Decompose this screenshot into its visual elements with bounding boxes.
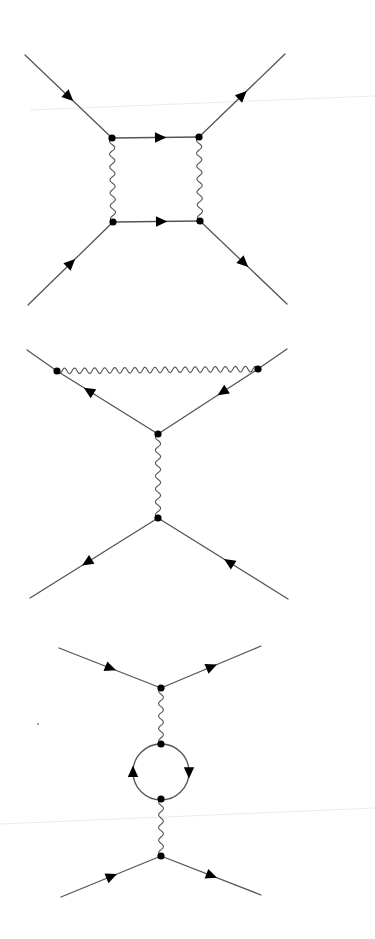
vertex-dot [254,365,261,372]
fermion-line-external-top-right [258,349,287,369]
vertex-dot [157,852,164,859]
fermion-line-internal-right [158,369,258,434]
scan-artifact-dot [37,723,39,725]
loop-arrow-icon [184,767,194,778]
fermion-line-internal-left [57,371,158,434]
vertex-dot [154,514,161,521]
scan-artifact-line [0,808,375,824]
vertex-dot [157,795,164,802]
photon-line-photon-lower [159,799,164,856]
arrow-icon [156,216,167,226]
fermion-line-external-bottom-left [30,518,158,598]
vertex-dot [53,367,60,374]
photon-line-photon-right [196,137,202,221]
vertex-dot [157,740,164,747]
arrow-icon [82,555,94,565]
arrow-icon [155,132,166,142]
vacuum-polarization-diagram [59,646,261,897]
vertex-correction-diagram [27,349,288,599]
photon-line-photon-center [155,434,160,518]
fermion-loop [133,744,189,800]
photon-line-photon-upper [159,688,164,744]
arrow-icon [224,559,236,569]
arrow-icon [84,388,96,398]
loop-arrow-icon [128,766,138,777]
arrow-icon [218,385,230,396]
photon-line-photon-left [109,138,115,222]
vertex-dot [108,134,115,141]
diagram-canvas [0,0,375,939]
scan-artifacts [0,96,375,824]
vertex-dot [196,217,203,224]
scan-artifact-line [30,96,375,110]
vertex-dot [195,133,202,140]
box-diagram [25,54,287,305]
vertex-dot [109,218,116,225]
fermion-line-external-bottom-right [158,518,288,599]
photon-line-photon-top [57,366,258,374]
vertex-dot [154,430,161,437]
fermion-line-external-top-left [27,350,57,371]
vertex-dot [157,684,164,691]
